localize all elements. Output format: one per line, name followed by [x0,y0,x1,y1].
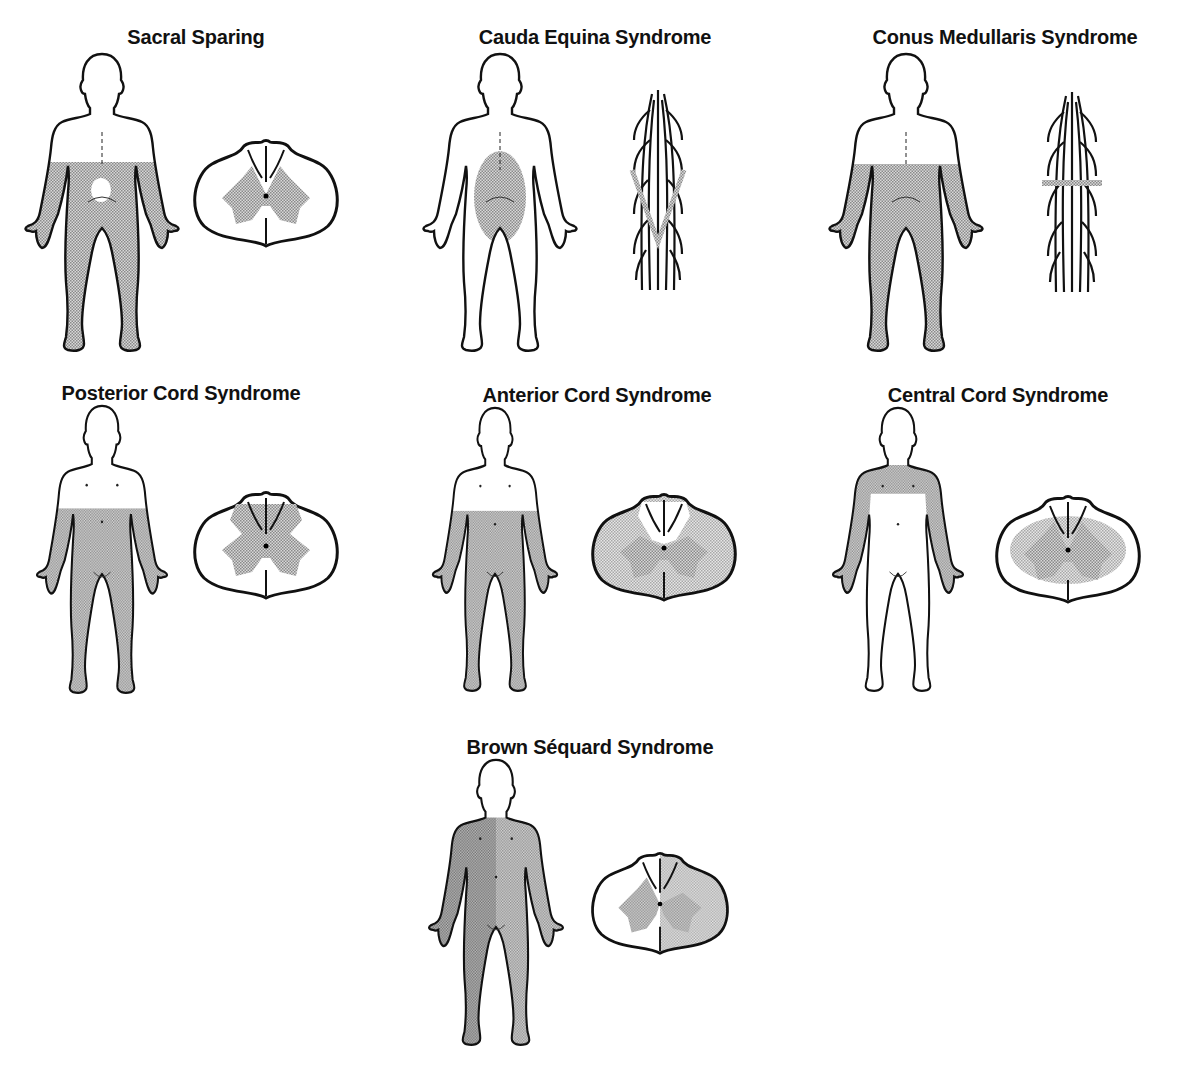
panel-title: Sacral Sparing [96,26,296,49]
body-posterior-figure [22,52,182,352]
body-anterior-figure [426,758,566,1046]
panel-title: Cauda Equina Syndrome [440,26,750,49]
body-posterior-figure [420,52,580,352]
panel-title: Central Cord Syndrome [856,384,1140,407]
body-anterior-figure [430,406,560,692]
spinal-cord-cross-section [994,494,1142,606]
cauda-equina-roots [628,90,688,296]
body-posterior-figure [826,52,986,352]
panel-title: Brown Séquard Syndrome [440,736,740,759]
conus-medullaris-roots [1042,92,1102,298]
spinal-cord-cross-section [192,138,340,250]
panel-title: Posterior Cord Syndrome [26,382,336,405]
spinal-cord-cross-section [192,490,340,602]
spinal-cord-cross-section [590,492,738,604]
panel-title: Anterior Cord Syndrome [452,384,742,407]
body-anterior-figure [830,406,966,692]
body-anterior-figure [34,404,170,694]
spinal-cord-cross-section [590,848,730,960]
panel-title: Conus Medullaris Syndrome [838,26,1172,49]
